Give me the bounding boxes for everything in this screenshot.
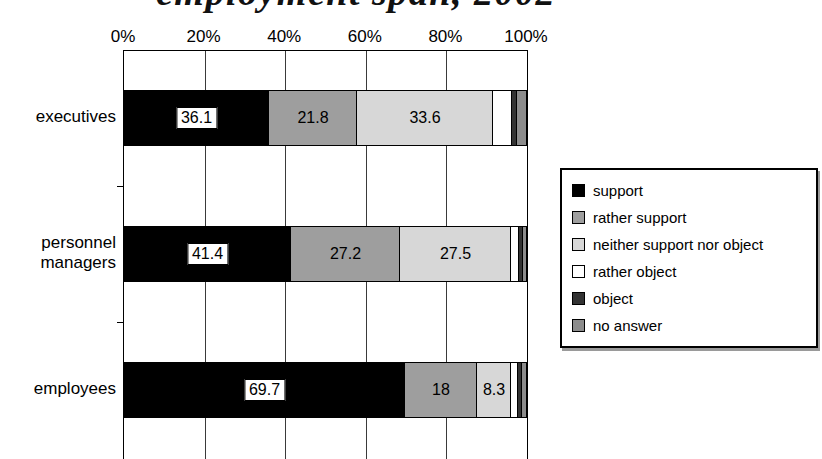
value-label: 18	[432, 381, 450, 399]
legend-swatch-no-answer	[572, 319, 585, 332]
x-tick-label-80: 80%	[428, 27, 462, 47]
value-label: 36.1	[176, 107, 217, 129]
legend-swatch-object	[572, 292, 585, 305]
value-label: 8.3	[483, 381, 505, 399]
legend-label: object	[593, 290, 633, 307]
legend-label: rather support	[593, 209, 686, 226]
value-label: 69.7	[244, 379, 285, 401]
legend-swatch-neither-support-nor-object	[572, 238, 585, 251]
legend-label: no answer	[593, 317, 662, 334]
bar-segment-rather-object	[492, 90, 512, 146]
plot-area: 36.121.833.641.427.227.569.7188.3	[123, 50, 528, 459]
chart-title: employment span, 2002	[156, 0, 556, 14]
legend-item-rather-support: rather support	[572, 204, 806, 231]
y-axis-tick	[117, 322, 123, 323]
legend-swatch-support	[572, 184, 585, 197]
bar-segment-no-answer	[516, 90, 527, 146]
legend-swatch-rather-object	[572, 265, 585, 278]
legend: supportrather supportneither support nor…	[560, 168, 818, 348]
x-tick-label-40: 40%	[267, 27, 301, 47]
stacked-bar-chart: employment span, 2002 0%20%40%60%80%100%…	[0, 0, 822, 459]
y-axis-tick	[117, 186, 123, 187]
category-label-employees: employees	[6, 379, 116, 399]
x-axis: 0%20%40%60%80%100%	[123, 27, 528, 48]
legend-label: support	[593, 182, 643, 199]
legend-item-no-answer: no answer	[572, 312, 806, 339]
category-label-executives: executives	[6, 107, 116, 127]
value-label: 27.2	[330, 245, 361, 263]
legend-label: neither support nor object	[593, 236, 763, 253]
legend-item-support: support	[572, 177, 806, 204]
value-label: 27.5	[440, 245, 471, 263]
category-labels: executivespersonnel managersemployees	[6, 0, 116, 459]
x-tick-label-20: 20%	[187, 27, 221, 47]
x-tick-label-100: 100%	[504, 27, 547, 47]
x-tick-label-60: 60%	[348, 27, 382, 47]
bar-segment-no-answer	[521, 362, 527, 418]
value-label: 41.4	[187, 243, 228, 265]
legend-swatch-rather-support	[572, 211, 585, 224]
legend-item-object: object	[572, 285, 806, 312]
bar-segment-no-answer	[522, 226, 527, 282]
legend-label: rather object	[593, 263, 676, 280]
legend-item-neither-support-nor-object: neither support nor object	[572, 231, 806, 258]
legend-item-rather-object: rather object	[572, 258, 806, 285]
value-label: 21.8	[297, 109, 328, 127]
value-label: 33.6	[409, 109, 440, 127]
category-label-personnel-managers: personnel managers	[6, 233, 116, 273]
